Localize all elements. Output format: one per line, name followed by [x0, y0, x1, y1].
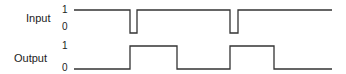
- output-waveform: [74, 46, 332, 69]
- output-high-level-label: 1: [62, 40, 68, 51]
- timing-diagram: Input 1 0 Output 1 0: [0, 0, 346, 74]
- input-signal-label: Input: [26, 12, 50, 24]
- input-high-level-label: 1: [62, 4, 68, 15]
- input-low-level-label: 0: [62, 21, 68, 32]
- output-signal-label: Output: [14, 52, 47, 64]
- input-waveform: [74, 10, 332, 33]
- output-low-level-label: 0: [62, 62, 68, 73]
